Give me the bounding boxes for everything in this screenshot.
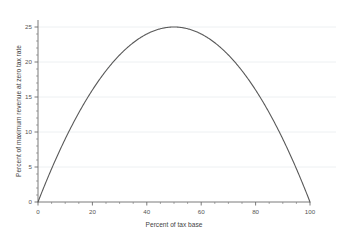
y-tick-label: 15 (25, 93, 32, 100)
x-tick-label: 60 (198, 208, 205, 215)
y-tick-label: 20 (25, 58, 32, 65)
x-tick-label: 80 (252, 208, 259, 215)
x-tick-label: 40 (143, 208, 150, 215)
laffer-curve-chart: 020406080100 0510152025 Percent of tax b… (0, 0, 342, 236)
y-tick-label: 0 (29, 198, 33, 205)
y-tick-label: 5 (29, 163, 33, 170)
x-tick-label: 100 (305, 208, 316, 215)
x-tick-label: 0 (36, 208, 40, 215)
y-axis-title: Percent of maximum revenue at zero tax r… (15, 45, 22, 177)
x-axis-title: Percent of tax base (146, 221, 203, 228)
y-tick-label: 25 (25, 23, 32, 30)
y-tick-label: 10 (25, 128, 32, 135)
chart-figure: 020406080100 0510152025 Percent of tax b… (0, 0, 342, 236)
x-tick-label: 20 (89, 208, 96, 215)
chart-background (0, 0, 342, 236)
